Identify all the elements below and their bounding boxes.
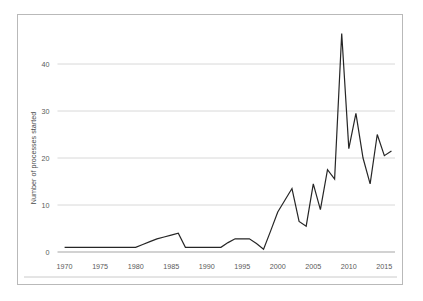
y-axis-tick-label-group: 010203040 [42, 60, 50, 257]
x-tick-label-2005: 2005 [305, 262, 321, 271]
x-tick-label-1995: 1995 [234, 262, 250, 271]
y-axis-title: Number of processes started [29, 112, 38, 204]
x-tick-label-2000: 2000 [270, 262, 286, 271]
data-line-series-0 [65, 33, 392, 249]
y-tick-label-30: 30 [42, 107, 50, 116]
x-tick-label-1990: 1990 [199, 262, 215, 271]
x-tick-label-1985: 1985 [163, 262, 179, 271]
x-tick-label-1975: 1975 [92, 262, 108, 271]
x-tick-label-1980: 1980 [128, 262, 144, 271]
x-tick-label-1970: 1970 [57, 262, 73, 271]
x-axis-tick-label-group: 1970197519801985199019952000200520102015 [57, 262, 393, 271]
data-series-group [65, 33, 392, 249]
chart-canvas: 010203040 197019751980198519901995200020… [0, 0, 423, 301]
y-tick-label-10: 10 [42, 201, 50, 210]
x-tick-label-2010: 2010 [341, 262, 357, 271]
y-tick-label-0: 0 [46, 248, 50, 257]
axis-title-group: Number of processes started [29, 112, 38, 204]
x-tick-label-2015: 2015 [376, 262, 392, 271]
y-tick-label-20: 20 [42, 154, 50, 163]
line-chart-figure: 010203040 197019751980198519901995200020… [0, 0, 423, 301]
y-tick-label-40: 40 [42, 60, 50, 69]
